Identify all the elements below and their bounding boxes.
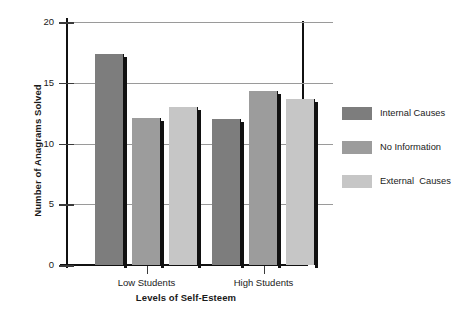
y-axis-tick [59, 265, 74, 267]
bar-face [249, 91, 278, 265]
bar-face [169, 107, 198, 265]
legend-label: Internal Causes [380, 108, 445, 118]
x-axis-tick [264, 266, 266, 274]
bar [169, 107, 198, 265]
y-axis-tick-label: 10 [14, 138, 54, 149]
legend-swatch [342, 107, 372, 120]
x-axis-tick [147, 266, 149, 274]
bar-shadow [278, 94, 281, 268]
bar-face [132, 118, 161, 265]
legend-label: External Causes [380, 176, 451, 186]
bar [95, 54, 124, 265]
y-axis-tick-label: 0 [14, 259, 54, 270]
x-axis-title: Levels of Self-Esteem [0, 292, 372, 303]
x-axis-tick-label: High Students [234, 277, 294, 288]
bar-shadow [124, 57, 127, 268]
bar [286, 99, 315, 265]
bar-face [95, 54, 124, 265]
y-axis-tick-label: 5 [14, 198, 54, 209]
y-axis-tick-label: 20 [14, 16, 54, 27]
bar-shadow [198, 110, 201, 268]
x-axis-tick-label: Low Students [118, 277, 176, 288]
legend-item: External Causes [342, 164, 470, 198]
bar-shadow [161, 121, 164, 268]
bar [249, 91, 278, 265]
legend: Internal CausesNo InformationExternal Ca… [342, 96, 470, 198]
bar-shadow [315, 102, 318, 268]
legend-item: Internal Causes [342, 96, 470, 130]
legend-swatch [342, 141, 372, 154]
legend-label: No Information [380, 142, 441, 152]
legend-swatch [342, 175, 372, 188]
bar-face [286, 99, 315, 265]
plot-area [67, 22, 303, 265]
y-axis-tick-label: 15 [14, 77, 54, 88]
bar-chart: Number of Anagrams Solved 05101520 Low S… [0, 0, 471, 316]
bar [212, 119, 241, 265]
bar-face [212, 119, 241, 265]
legend-item: No Information [342, 130, 470, 164]
bar-shadow [241, 122, 244, 268]
bar [132, 118, 161, 265]
